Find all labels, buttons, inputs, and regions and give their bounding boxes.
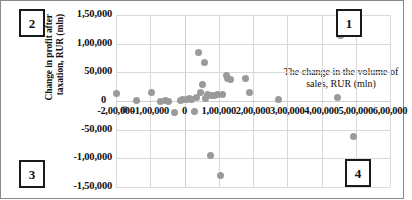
y-axis-title-line1: Change in profit after <box>44 14 55 101</box>
gridline-vertical <box>390 15 391 187</box>
gridline-horizontal <box>116 44 390 45</box>
quadrant-label-1: 1 <box>336 9 362 37</box>
data-point <box>334 94 341 101</box>
gridline-horizontal <box>116 130 390 131</box>
data-point <box>246 89 253 96</box>
x-axis-tick-label: 6,00,000 <box>360 105 412 116</box>
quadrant-label-2: 2 <box>19 9 45 37</box>
gridline-horizontal <box>116 187 390 188</box>
data-point <box>195 49 202 56</box>
data-point <box>133 97 140 104</box>
data-point <box>350 133 357 140</box>
quadrant-label-3: 3 <box>19 160 45 188</box>
data-point <box>165 98 172 105</box>
y-axis-tick-label: 0 <box>0 94 106 105</box>
y-axis-tick-label: 50,000 <box>4 65 112 76</box>
data-point <box>242 75 249 82</box>
data-point <box>219 91 226 98</box>
data-point <box>227 76 234 83</box>
y-axis-tick-label: 1,00,000 <box>4 37 112 48</box>
data-point <box>217 172 224 179</box>
data-point <box>207 152 214 159</box>
data-point <box>199 81 206 88</box>
data-point <box>113 90 120 97</box>
data-point <box>148 89 155 96</box>
y-axis-title-line2: taxation, RUR (mln) <box>55 14 66 95</box>
quadrant-label-4: 4 <box>345 159 371 187</box>
data-point <box>275 96 282 103</box>
gridline-horizontal <box>116 72 390 73</box>
y-axis-tick-label: -50,000 <box>4 123 112 134</box>
data-point <box>201 59 208 66</box>
